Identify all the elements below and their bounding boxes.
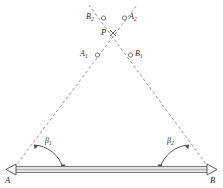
angle-arc-left xyxy=(34,145,63,168)
intersection-cross-icon xyxy=(110,30,116,36)
angle-label-beta2: β2 xyxy=(167,137,174,145)
point-marker-a1 xyxy=(95,53,99,57)
point-label-a2: A2 xyxy=(129,13,137,21)
triangulation-figure: B2 A2 P A1 B1 β1 β2 A B xyxy=(0,0,223,188)
point-marker-b2 xyxy=(101,16,105,20)
endpoint-label-b: B xyxy=(210,176,215,185)
point-label-b1: B1 xyxy=(135,50,143,58)
point-label-b2: B2 xyxy=(86,13,94,21)
point-marker-a2 xyxy=(122,16,126,20)
point-marker-b1 xyxy=(128,53,132,57)
point-label-a1: A1 xyxy=(80,50,88,58)
support-marker-b xyxy=(207,164,217,175)
sight-line-from-a xyxy=(14,5,137,168)
endpoint-label-a: A xyxy=(5,176,10,185)
point-label-p: P xyxy=(101,28,106,37)
support-marker-a xyxy=(6,164,16,175)
sight-line-from-b xyxy=(89,5,209,168)
angle-arc-right-arrow-top xyxy=(185,145,189,149)
figure-canvas xyxy=(0,0,223,188)
angle-label-beta1: β1 xyxy=(45,137,52,145)
angle-arc-right xyxy=(160,145,189,168)
angle-arc-left-arrow-top xyxy=(34,145,38,149)
